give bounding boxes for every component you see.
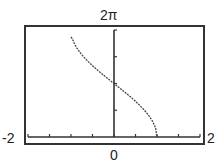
x-max-label: 2 [207, 131, 215, 145]
y-max-label: 2π [100, 8, 117, 22]
x-origin-label: 0 [110, 148, 118, 162]
x-min-label: -2 [2, 131, 14, 145]
plot [0, 0, 219, 163]
